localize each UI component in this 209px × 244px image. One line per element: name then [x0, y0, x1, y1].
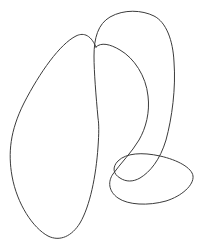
canvas-background [0, 0, 209, 244]
doodle-canvas [0, 0, 209, 244]
doodle-svg [0, 0, 209, 244]
